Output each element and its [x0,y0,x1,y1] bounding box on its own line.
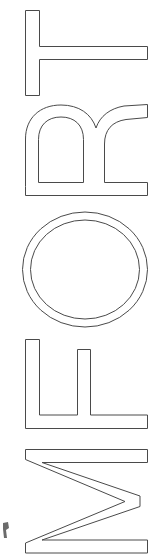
letter-glyph-t [26,11,148,96]
letter-o-inner-counter [31,220,140,319]
cropped-glyph-fragment [3,522,9,538]
letter-f-outline [26,340,148,429]
artwork-canvas [0,0,156,555]
glyph-fragment-mark [3,522,9,538]
letter-glyph-m [26,450,148,554]
letter-r-bowl-counter [39,117,84,183]
letter-m-outline [26,450,148,554]
letter-t-outline [26,11,148,96]
rotated-lettering-illustration [0,0,156,555]
letter-glyph-o [23,212,148,327]
letter-glyph-r [26,105,148,196]
letter-glyph-f [26,340,148,429]
